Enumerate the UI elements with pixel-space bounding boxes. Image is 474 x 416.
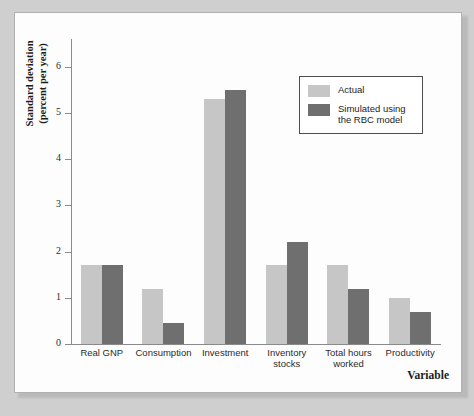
bar-actual [142, 289, 163, 344]
plot-area: Standard deviation (percent per year) 01… [15, 13, 463, 394]
x-axis-title: Variable [407, 369, 449, 381]
y-axis-tick-label: 4 [56, 152, 61, 163]
y-axis-title-line2: (percent per year) [36, 43, 47, 124]
legend-item-simulated: Simulated using the RBC model [308, 103, 414, 125]
x-axis-label: Productivity [379, 347, 441, 358]
bar-actual [266, 265, 287, 344]
bar-simulated [225, 90, 246, 344]
bar-actual [389, 298, 410, 344]
y-axis-title-line1: Standard deviation [24, 40, 35, 126]
legend-swatch-actual-icon [308, 85, 330, 97]
bar-actual [204, 99, 225, 344]
y-axis-tick-label: 1 [56, 291, 61, 302]
y-axis-tick-label: 5 [56, 106, 61, 117]
legend-swatch-simulated-icon [308, 104, 330, 116]
x-axis-line [71, 344, 441, 345]
bar-simulated [163, 323, 184, 344]
figure-root: Standard deviation (percent per year) 01… [0, 0, 474, 416]
x-axis-category-labels: Real GNPConsumptionInvestmentInventory s… [71, 347, 441, 377]
bar-simulated [410, 312, 431, 344]
y-axis-tick-label: 6 [56, 60, 61, 71]
legend-label-simulated: Simulated using the RBC model [338, 103, 414, 125]
y-axis-tick-label: 3 [56, 198, 61, 209]
y-axis-tick: 0 [65, 344, 72, 345]
bar-group [133, 39, 195, 344]
bar-simulated [348, 289, 369, 344]
y-axis-tick-label: 2 [56, 245, 61, 256]
legend-item-actual: Actual [308, 84, 414, 97]
y-axis-tick-label: 0 [56, 337, 61, 348]
y-axis-title: Standard deviation (percent per year) [24, 19, 49, 149]
x-axis-label: Investment [194, 347, 256, 358]
x-axis-label: Consumption [133, 347, 195, 358]
bar-simulated [102, 265, 123, 344]
x-axis-label: Real GNP [71, 347, 133, 358]
bar-group [71, 39, 133, 344]
x-axis-label: Total hours worked [318, 347, 380, 369]
bar-actual [81, 265, 102, 344]
chart-panel: Standard deviation (percent per year) 01… [14, 12, 462, 393]
legend-label-actual: Actual [338, 84, 364, 95]
x-axis-label: Inventory stocks [256, 347, 318, 369]
bar-group [194, 39, 256, 344]
bar-actual [327, 265, 348, 344]
bar-simulated [287, 242, 308, 344]
chart-legend: Actual Simulated using the RBC model [299, 76, 423, 134]
